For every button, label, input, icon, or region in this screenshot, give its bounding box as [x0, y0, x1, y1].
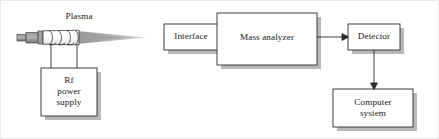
block-detector: [348, 24, 400, 50]
block-interface: [164, 24, 218, 50]
block-outlines: [41, 13, 413, 127]
block-computer-system: [333, 89, 413, 127]
torch-collar-icon: [38, 31, 43, 44]
icp-ms-schematic-figure: Plasma Rf power supply Interface Mass an…: [0, 0, 439, 139]
torch-injector-icon: [17, 35, 26, 42]
block-mass-analyzer: [217, 13, 317, 65]
icp-torch-group: [17, 30, 146, 68]
block-rf-power-supply: [41, 68, 97, 116]
torch-tube-icon: [43, 30, 79, 45]
diagram-canvas: [1, 1, 439, 139]
torch-nozzle-icon: [26, 33, 38, 44]
